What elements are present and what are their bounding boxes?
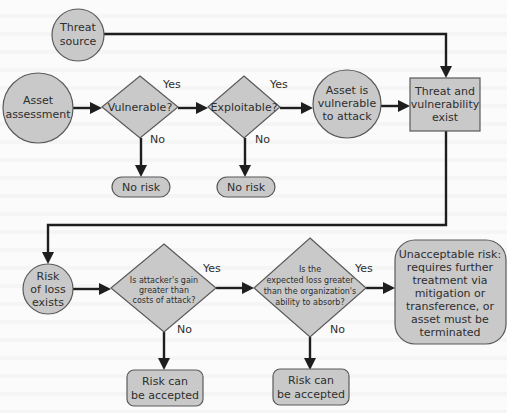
node-expected-loss-decision: Is the expected loss greater than the or… xyxy=(254,238,366,337)
svg-text:vulnerable: vulnerable xyxy=(318,97,377,110)
svg-text:exists: exists xyxy=(32,296,64,309)
svg-text:Is the: Is the xyxy=(299,265,321,274)
svg-text:Is attacker's gain: Is attacker's gain xyxy=(130,276,198,285)
arrowhead-icon xyxy=(398,100,410,112)
label-yes: Yes xyxy=(269,78,288,91)
node-risk-of-loss: Risk of loss exists xyxy=(23,264,73,314)
svg-text:vulnerability: vulnerability xyxy=(411,98,480,111)
node-unacceptable-risk: Unacceptable risk: requires further trea… xyxy=(395,240,506,344)
node-risk-accepted-2: Risk can be accepted xyxy=(273,369,349,405)
svg-text:mitigation or: mitigation or xyxy=(415,287,486,300)
svg-text:costs of attack?: costs of attack? xyxy=(133,296,196,305)
svg-text:Unacceptable risk:: Unacceptable risk: xyxy=(399,248,501,261)
svg-text:ability to absorb?: ability to absorb? xyxy=(275,298,344,307)
svg-text:of loss: of loss xyxy=(30,283,66,296)
svg-text:Asset: Asset xyxy=(23,94,54,107)
svg-text:source: source xyxy=(60,35,97,48)
svg-text:Risk can: Risk can xyxy=(288,374,334,387)
svg-text:to attack: to attack xyxy=(322,110,372,123)
node-no-risk-1: No risk xyxy=(112,177,170,197)
svg-text:be accepted: be accepted xyxy=(277,388,345,401)
svg-text:terminated: terminated xyxy=(420,326,481,339)
arrowhead-icon xyxy=(42,252,54,264)
svg-text:than the organization's: than the organization's xyxy=(264,287,357,296)
label-no: No xyxy=(255,133,270,146)
arrowhead-icon xyxy=(90,102,102,114)
svg-text:greater than: greater than xyxy=(139,286,189,295)
label-yes: Yes xyxy=(162,78,181,91)
flowchart: Yes No Yes No Yes No Yes No Threat sourc… xyxy=(0,0,507,413)
svg-text:No risk: No risk xyxy=(227,181,266,194)
svg-text:Asset is: Asset is xyxy=(326,84,369,97)
label-yes: Yes xyxy=(202,262,221,275)
svg-text:exist: exist xyxy=(432,111,459,124)
node-asset-assessment: Asset assessment xyxy=(3,73,73,143)
svg-text:Exploitable?: Exploitable? xyxy=(211,101,278,114)
label-no: No xyxy=(330,323,345,336)
node-threat-source: Threat source xyxy=(52,9,104,61)
arrowhead-icon xyxy=(301,102,313,114)
svg-text:Vulnerable?: Vulnerable? xyxy=(108,101,173,114)
node-attacker-gain-decision: Is attacker's gain greater than costs of… xyxy=(111,244,216,332)
svg-text:treatment via: treatment via xyxy=(413,274,488,287)
node-risk-accepted-1: Risk can be accepted xyxy=(127,370,203,406)
svg-text:transference, or: transference, or xyxy=(406,300,494,313)
node-no-risk-2: No risk xyxy=(217,177,275,197)
svg-text:assessment: assessment xyxy=(5,108,71,121)
arrowhead-icon xyxy=(383,282,395,294)
arrowhead-icon xyxy=(440,66,452,78)
svg-text:Risk can: Risk can xyxy=(142,375,188,388)
arrowhead-icon xyxy=(304,358,316,370)
arrowhead-icon xyxy=(239,165,251,177)
svg-text:expected loss greater: expected loss greater xyxy=(267,276,355,285)
node-asset-vulnerable: Asset is vulnerable to attack xyxy=(313,70,381,138)
edge-threat-to-box xyxy=(104,34,446,68)
svg-text:Threat: Threat xyxy=(59,21,96,34)
label-yes: Yes xyxy=(354,262,373,275)
label-no: No xyxy=(177,323,192,336)
svg-text:requires further: requires further xyxy=(407,261,494,274)
svg-text:asset must be: asset must be xyxy=(411,313,489,326)
svg-text:Risk: Risk xyxy=(37,270,60,283)
svg-text:be accepted: be accepted xyxy=(131,389,199,402)
svg-text:No risk: No risk xyxy=(122,181,161,194)
arrowhead-icon xyxy=(196,102,208,114)
svg-text:Threat and: Threat and xyxy=(414,85,475,98)
arrowhead-icon xyxy=(242,282,254,294)
label-no: No xyxy=(150,133,165,146)
arrowhead-icon xyxy=(135,165,147,177)
arrowhead-icon xyxy=(158,358,170,370)
node-threat-vulnerability-exist: Threat and vulnerability exist xyxy=(410,78,480,131)
arrowhead-icon xyxy=(99,283,111,295)
